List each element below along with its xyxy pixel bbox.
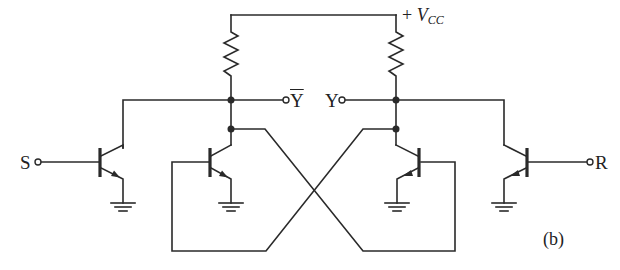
right-collector-node [344, 97, 504, 146]
circuit-diagram: + VCC S Y Y R (b) [0, 0, 620, 270]
ground-icon [111, 203, 135, 211]
vcc-label: + VCC [402, 6, 444, 26]
figure-tag: (b) [543, 230, 564, 248]
cross-coupling-wires [172, 129, 455, 251]
transistor-left-icon [210, 145, 231, 203]
transistor-right-icon [396, 145, 419, 203]
schematic-svg [0, 0, 620, 270]
ground-icon [492, 203, 516, 211]
vcc-plus: + [402, 5, 412, 25]
terminal-y-icon [339, 97, 345, 103]
transistor-reset-icon [504, 145, 587, 203]
left-collector-node [123, 97, 284, 149]
output-ybar-label: Y [290, 91, 304, 110]
ground-icon [385, 203, 409, 211]
terminal-ybar-icon [283, 97, 289, 103]
output-y-label: Y [325, 91, 339, 110]
reset-input-label: R [595, 153, 608, 172]
resistor-left-icon [224, 15, 238, 100]
terminal-s-icon [35, 159, 41, 165]
transistor-set-icon [40, 145, 123, 203]
ground-icon [219, 203, 243, 211]
terminal-r-icon [587, 159, 593, 165]
vcc-sub: CC [428, 13, 444, 27]
resistor-right-icon [389, 15, 403, 100]
vcc-v: V [417, 5, 428, 25]
set-input-label: S [20, 153, 31, 172]
